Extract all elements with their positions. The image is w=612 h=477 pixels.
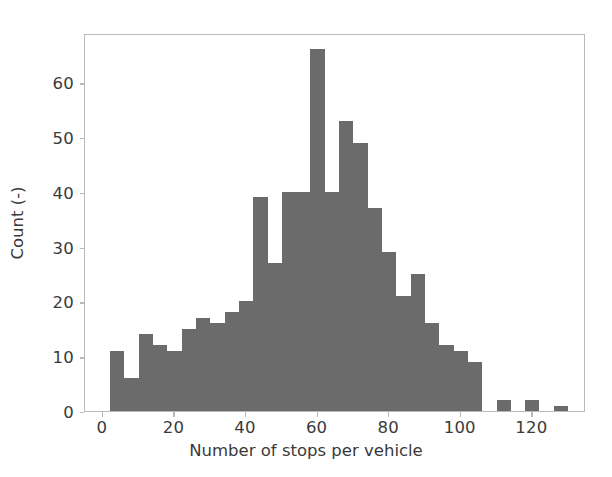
- x-tick-mark: [173, 412, 174, 417]
- y-tick-label: 50: [53, 129, 74, 148]
- histogram-bar: [382, 252, 396, 411]
- y-axis-label: Count (-): [8, 186, 27, 259]
- histogram-bar: [124, 378, 138, 411]
- y-tick-mark: [80, 412, 85, 413]
- histogram-bar: [368, 208, 382, 411]
- histogram-bar: [139, 334, 153, 411]
- histogram-bar: [210, 323, 224, 411]
- x-tick-label: 100: [444, 418, 476, 437]
- y-tick-label: 20: [53, 293, 74, 312]
- histogram-figure: 020406080100120 0102030405060 Number of …: [0, 0, 612, 477]
- histogram-bar: [497, 400, 511, 411]
- histogram-bar: [110, 351, 124, 411]
- histogram-bar: [353, 143, 367, 411]
- x-tick-label: 40: [234, 418, 255, 437]
- x-tick-mark: [245, 412, 246, 417]
- histogram-bar: [525, 400, 539, 411]
- x-tick-mark: [388, 412, 389, 417]
- y-tick-mark: [80, 138, 85, 139]
- y-tick-label: 10: [53, 348, 74, 367]
- histogram-bar: [268, 263, 282, 411]
- x-tick-label: 0: [97, 418, 108, 437]
- histogram-bar: [182, 329, 196, 411]
- x-tick-mark: [317, 412, 318, 417]
- y-tick-mark: [80, 302, 85, 303]
- histogram-bar: [225, 312, 239, 411]
- x-tick-mark: [460, 412, 461, 417]
- histogram-bar: [153, 345, 167, 411]
- x-axis-label: Number of stops per vehicle: [0, 441, 612, 460]
- x-tick-mark: [102, 412, 103, 417]
- y-tick-mark: [80, 357, 85, 358]
- x-tick-mark: [531, 412, 532, 417]
- histogram-bar: [239, 301, 253, 411]
- histogram-bar: [439, 345, 453, 411]
- histogram-bar: [167, 351, 181, 411]
- histogram-bar: [468, 362, 482, 411]
- histogram-bar: [296, 192, 310, 411]
- y-tick-mark: [80, 193, 85, 194]
- histogram-bars: [85, 35, 584, 411]
- histogram-bar: [325, 192, 339, 411]
- y-tick-mark: [80, 83, 85, 84]
- x-tick-label: 20: [163, 418, 184, 437]
- y-tick-label: 0: [63, 403, 74, 422]
- y-tick-mark: [80, 248, 85, 249]
- histogram-bar: [396, 296, 410, 411]
- histogram-bar: [253, 197, 267, 411]
- histogram-bar: [282, 192, 296, 411]
- histogram-bar: [454, 351, 468, 411]
- x-tick-label: 60: [306, 418, 327, 437]
- histogram-bar: [196, 318, 210, 411]
- y-tick-label: 60: [53, 74, 74, 93]
- histogram-bar: [425, 323, 439, 411]
- y-tick-label: 40: [53, 183, 74, 202]
- x-tick-label: 80: [377, 418, 398, 437]
- plot-area: [84, 34, 585, 412]
- histogram-bar: [339, 121, 353, 411]
- x-tick-label: 120: [515, 418, 547, 437]
- y-tick-label: 30: [53, 238, 74, 257]
- histogram-bar: [411, 274, 425, 411]
- histogram-bar: [310, 49, 324, 411]
- histogram-bar: [554, 406, 568, 411]
